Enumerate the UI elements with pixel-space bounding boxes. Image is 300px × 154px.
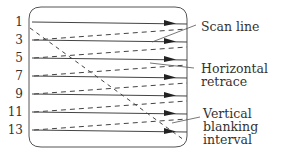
horizontal-retrace-label: Horizontal retrace [201, 62, 268, 88]
scan-line-label: Scan line [201, 20, 259, 33]
scan-arrowheads [164, 20, 176, 134]
scan-line-text: Scan line [201, 19, 259, 34]
line-number-13: 13 [3, 124, 23, 136]
line-number-3: 3 [3, 34, 23, 46]
line-number-11: 11 [3, 106, 23, 118]
line-number-7: 7 [3, 70, 23, 82]
vertical-blanking-text-1: Vertical blanking [203, 107, 300, 133]
vertical-blanking-label: Vertical blanking interval [203, 107, 300, 146]
callout-leaders [150, 25, 200, 123]
vertical-blanking-text-2: interval [203, 133, 300, 146]
line-number-1: 1 [3, 16, 23, 28]
vertical-blanking-line [30, 28, 184, 140]
horizontal-retrace-text-2: retrace [201, 75, 268, 88]
line-number-5: 5 [3, 52, 23, 64]
line-number-9: 9 [3, 88, 23, 100]
